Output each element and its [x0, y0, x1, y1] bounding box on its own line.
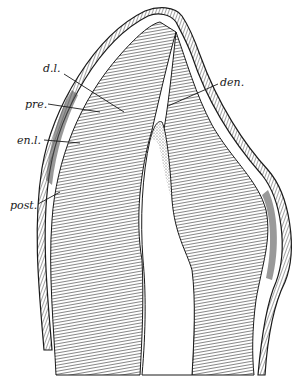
label-den: den. [220, 76, 244, 89]
label-post: post. [10, 199, 37, 212]
label-enl: en.l. [17, 134, 41, 147]
label-dl: d.l. [43, 62, 61, 75]
tooth-section-illustration [0, 0, 304, 379]
label-pre: pre. [25, 98, 47, 111]
